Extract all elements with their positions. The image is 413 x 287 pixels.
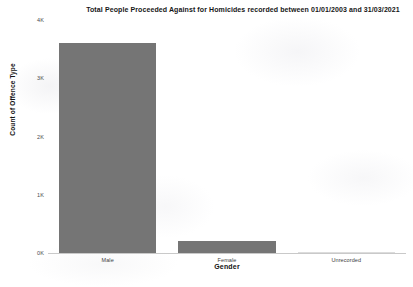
x-axis-title: Gender [48, 263, 406, 270]
x-axis-baseline [48, 253, 406, 254]
y-axis-tick-2K: 2K [22, 134, 44, 140]
bar-male[interactable] [59, 43, 156, 253]
bar-female[interactable] [178, 241, 275, 253]
y-axis-tick-3K: 3K [22, 75, 44, 81]
y-axis-tick-1K: 1K [22, 192, 44, 198]
y-axis-tick-0K: 0K [22, 250, 44, 256]
y-axis-title: Count of Offence Type [9, 40, 16, 160]
bar-chart: Total People Proceeded Against for Homic… [0, 0, 413, 287]
plot-area [48, 20, 406, 253]
y-axis-tick-4K: 4K [22, 17, 44, 23]
chart-title: Total People Proceeded Against for Homic… [78, 5, 408, 15]
